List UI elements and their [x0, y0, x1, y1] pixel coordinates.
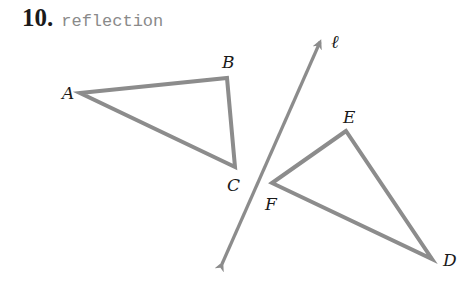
triangle-def-shape: [272, 131, 432, 259]
vertex-label-c: C: [227, 175, 240, 195]
triangle-def: E F D: [264, 107, 457, 270]
triangle-abc-shape: [80, 78, 235, 167]
vertex-label-f: F: [264, 194, 278, 214]
line-label-l: ℓ: [331, 31, 339, 52]
triangle-abc: A B C: [60, 52, 240, 195]
line-l-double-arrow-icon: [222, 42, 320, 264]
vertex-label-e: E: [342, 107, 356, 127]
vertex-label-b: B: [221, 52, 235, 72]
vertex-label-a: A: [60, 83, 74, 103]
vertex-label-d: D: [442, 250, 457, 270]
reflection-figure: ℓ A B C E F D: [0, 0, 475, 281]
